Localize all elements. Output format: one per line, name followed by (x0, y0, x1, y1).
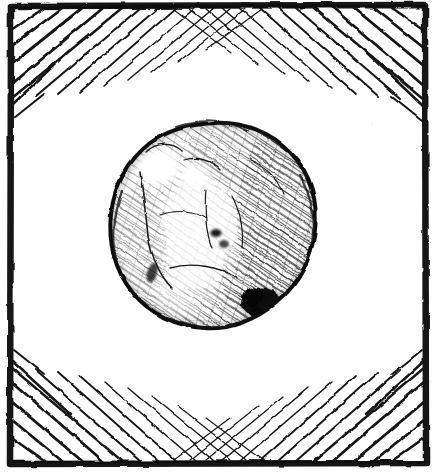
dark-speck-center (209, 228, 223, 238)
pale-band (156, 172, 244, 288)
moon-sketch-illustration (0, 0, 437, 475)
highlight-patch (139, 152, 177, 182)
sketch-canvas: Hand-drawn Moon (0, 0, 437, 475)
